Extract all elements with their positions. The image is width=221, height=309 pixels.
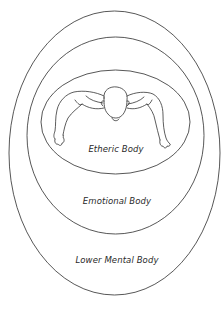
human-figure-icon	[54, 87, 170, 148]
emotional-body-label: Emotional Body	[83, 196, 151, 206]
etheric-body-label: Etheric Body	[88, 144, 143, 154]
lower-mental-body-label: Lower Mental Body	[75, 255, 158, 265]
etheric-body-ellipse	[41, 70, 190, 174]
